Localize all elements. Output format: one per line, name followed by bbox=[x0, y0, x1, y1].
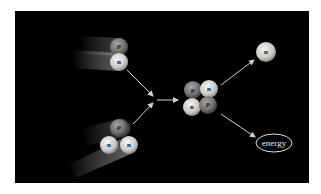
neutron-label: n bbox=[127, 141, 131, 149]
neutron-label: n bbox=[264, 48, 268, 56]
fusion-diagram-panel: p n p n n p n n p bbox=[15, 11, 309, 183]
proton-label: p bbox=[191, 86, 195, 94]
neutron-label: n bbox=[107, 141, 111, 149]
arrow-icon bbox=[133, 103, 153, 124]
proton-label: p bbox=[206, 100, 210, 108]
energy-output: energy bbox=[256, 134, 292, 152]
arrow-icon bbox=[221, 114, 255, 137]
energy-label: energy bbox=[262, 138, 287, 148]
helium-nucleus: p n n p bbox=[183, 80, 218, 116]
neutron-label: n bbox=[190, 103, 194, 111]
arrow-icon bbox=[221, 60, 254, 85]
proton-label: p bbox=[117, 123, 121, 131]
free-neutron: n bbox=[256, 42, 276, 62]
neutron-label: n bbox=[117, 58, 121, 66]
arrow-icon bbox=[127, 70, 153, 96]
neutron-label: n bbox=[207, 85, 211, 93]
proton-label: p bbox=[117, 42, 121, 50]
